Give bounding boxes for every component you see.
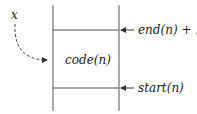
end-pointer-label: end(n) + 1 [138, 24, 197, 36]
variable-label: x [11, 9, 18, 21]
cell-label: code(n) [65, 54, 111, 66]
dashed-reference-arrow-icon [15, 24, 47, 60]
start-pointer-label: start(n) [138, 82, 184, 94]
